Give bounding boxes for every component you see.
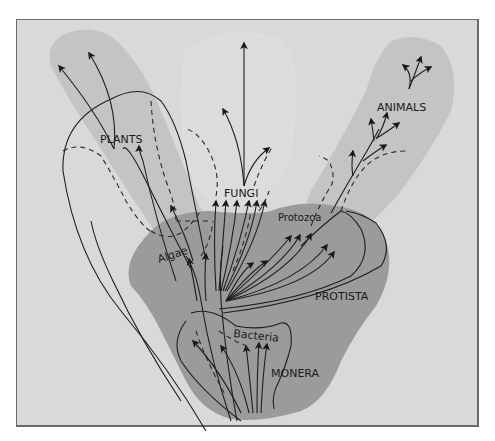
protista-monera-region [129, 203, 390, 420]
protozoa-label: Protozoa [278, 212, 321, 223]
protista-label: PROTISTA [315, 290, 369, 303]
animals-label: ANIMALS [377, 101, 426, 114]
fungi-region [182, 33, 295, 206]
plants-label: PLANTS [100, 133, 142, 146]
phylogeny-figure: PLANTS FUNGI ANIMALS Algae Protozoa PROT… [16, 19, 479, 427]
phylogeny-diagram: PLANTS FUNGI ANIMALS Algae Protozoa PROT… [17, 20, 495, 441]
monera-label: MONERA [271, 367, 320, 380]
fungi-label: FUNGI [224, 187, 258, 200]
